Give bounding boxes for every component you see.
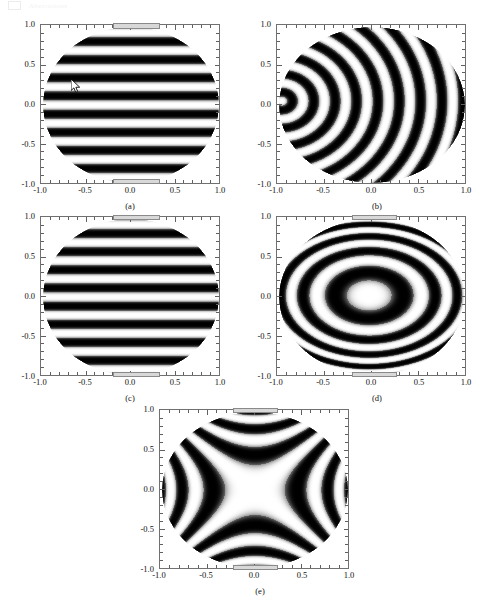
selection-bar-e-bottom (233, 565, 278, 570)
density-plot-a (43, 27, 219, 183)
panel-c: 1.0 0.5 0.0 -0.5 -1.0 -1.0 -0.5 0.0 0.5 … (14, 210, 226, 410)
caption-d: (d) (264, 393, 490, 403)
y-axis-labels-e: 1.0 0.5 0.0 -0.5 -1.0 (133, 403, 155, 581)
selection-bar-a-top (113, 23, 160, 29)
plot-frame-d (276, 216, 466, 376)
page-header: Aberrations (8, 1, 68, 10)
density-plot-e (162, 412, 348, 568)
plot-frame-c (40, 216, 220, 376)
selection-bar-c-top (113, 215, 160, 220)
plot-d: 1.0 0.5 0.0 -0.5 -1.0 -1.0 -0.5 0.0 0.5 … (250, 210, 476, 388)
y-axis-labels-c: 1.0 0.5 0.0 -0.5 -1.0 (14, 210, 36, 388)
y-axis-labels-b: 1.0 0.5 0.0 -0.5 -1.0 (250, 18, 272, 196)
mouse-cursor (71, 79, 82, 94)
plot-frame-a (40, 24, 220, 184)
selection-bar-d-bottom (352, 372, 397, 377)
plot-b: 1.0 0.5 0.0 -0.5 -1.0 -1.0 -0.5 0.0 0.5 … (250, 18, 476, 196)
y-axis-labels-d: 1.0 0.5 0.0 -0.5 -1.0 (250, 210, 272, 388)
selection-bar-a-bottom (113, 179, 160, 184)
density-plot-c (43, 219, 219, 375)
plot-c: 1.0 0.5 0.0 -0.5 -1.0 -1.0 -0.5 0.0 0.5 … (14, 210, 226, 388)
caption-e: (e) (147, 586, 373, 596)
panel-e: 1.0 0.5 0.0 -0.5 -1.0 -1.0 -0.5 0.0 0.5 … (133, 403, 359, 600)
selection-bar-c-bottom (113, 372, 160, 377)
density-plot-d (279, 219, 465, 375)
page-header-text: Aberrations (29, 2, 68, 10)
caption-c: (c) (24, 393, 236, 403)
figure-container: 1.0 0.5 0.0 -0.5 -1.0 -1.0 -0.5 0.0 0.5 … (0, 14, 491, 600)
selection-bar-d-top (352, 215, 397, 220)
plot-e: 1.0 0.5 0.0 -0.5 -1.0 -1.0 -0.5 0.0 0.5 … (133, 403, 359, 581)
panel-b: 1.0 0.5 0.0 -0.5 -1.0 -1.0 -0.5 0.0 0.5 … (250, 18, 476, 218)
page-marker-icon (8, 1, 21, 10)
selection-bar-e-top (233, 408, 278, 413)
plot-a: 1.0 0.5 0.0 -0.5 -1.0 -1.0 -0.5 0.0 0.5 … (14, 18, 226, 196)
plot-frame-b (276, 24, 466, 184)
panel-d: 1.0 0.5 0.0 -0.5 -1.0 -1.0 -0.5 0.0 0.5 … (250, 210, 476, 410)
density-plot-b (279, 27, 465, 183)
plot-frame-e (159, 409, 349, 569)
y-axis-labels-a: 1.0 0.5 0.0 -0.5 -1.0 (14, 18, 36, 196)
panel-a: 1.0 0.5 0.0 -0.5 -1.0 -1.0 -0.5 0.0 0.5 … (14, 18, 226, 218)
